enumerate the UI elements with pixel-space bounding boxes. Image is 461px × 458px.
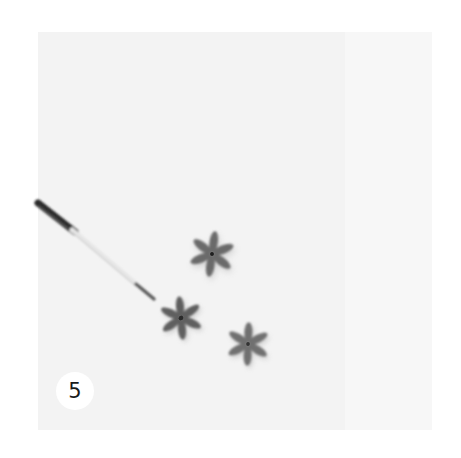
flower-top — [187, 228, 239, 283]
step-number-badge: 5 — [56, 372, 94, 410]
flower-right — [226, 321, 271, 369]
paintbrush-icon — [38, 203, 154, 299]
step-number: 5 — [68, 379, 81, 403]
flower-left — [158, 294, 206, 344]
